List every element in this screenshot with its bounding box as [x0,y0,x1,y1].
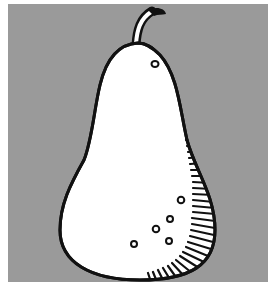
speckle [167,216,173,222]
pear-illustration: pear [0,0,271,296]
speckle [152,61,159,67]
speckle [131,241,137,247]
speckle [166,238,172,244]
speckle [178,197,185,204]
speckle [153,226,160,233]
